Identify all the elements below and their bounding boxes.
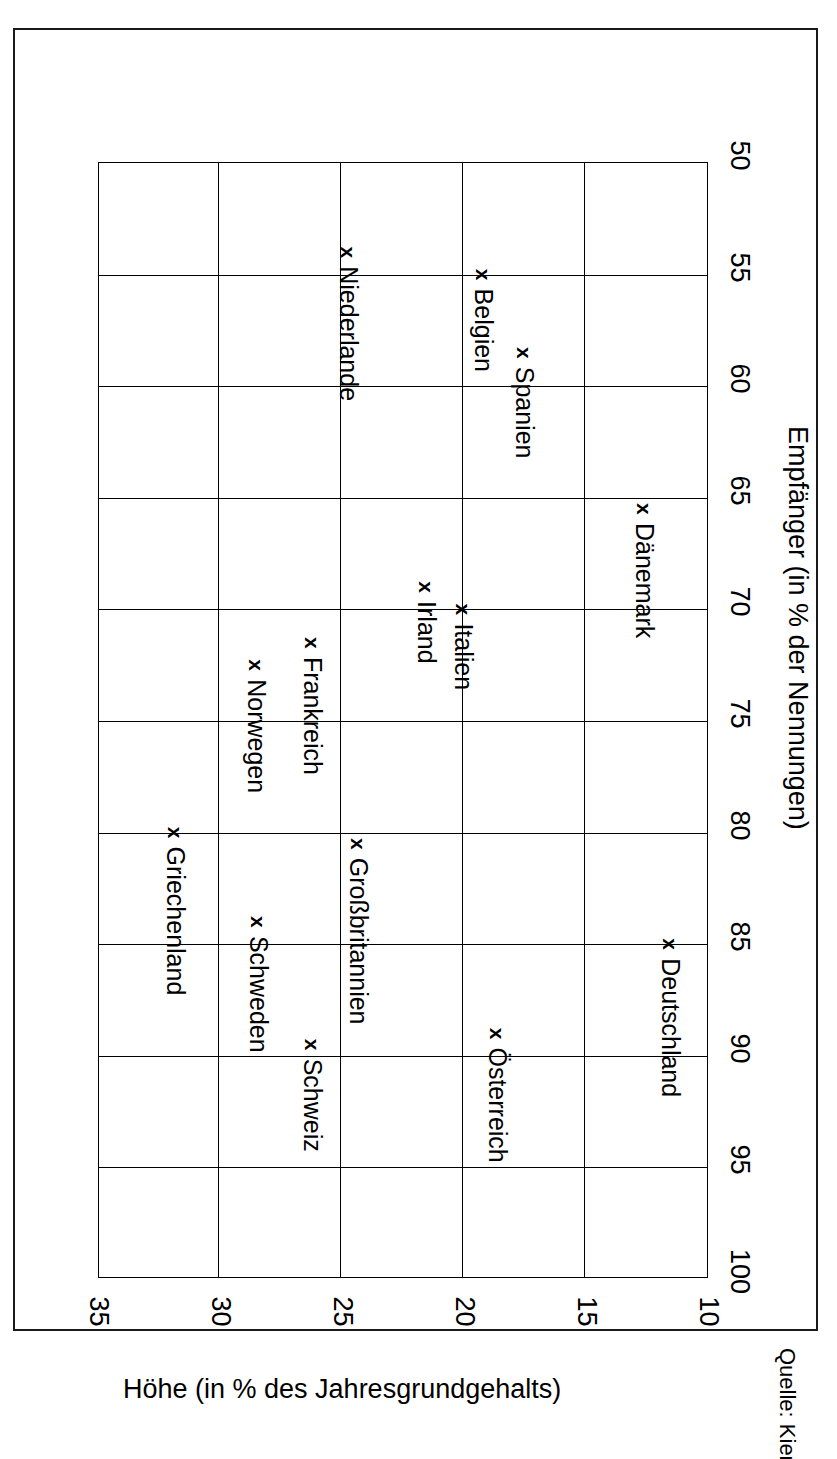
y-axis-title: Höhe (in % des Jahresgrundgehalts) (123, 1374, 561, 1405)
data-point-marker: x (453, 604, 474, 616)
x-axis-tick: 60 (724, 349, 755, 409)
rotated-chart-canvas: xDeutschlandxÖsterreichxGroßbritannienxS… (98, 162, 708, 1278)
data-point-label: Spanien (512, 367, 537, 459)
data-point-label: Schweiz (300, 1059, 325, 1152)
x-axis-tick: 55 (724, 237, 755, 297)
x-axis-tick: 80 (724, 795, 755, 855)
data-point-label: Belgien (471, 289, 496, 372)
data-point-label: Großbritannien (346, 858, 371, 1025)
gridline-vertical (99, 386, 707, 387)
x-axis-tick: 70 (724, 572, 755, 632)
figure-frame: xDeutschlandxÖsterreichxGroßbritannienxS… (13, 28, 818, 1331)
y-axis-tick: 35 (83, 1282, 114, 1342)
gridline-vertical (99, 1167, 707, 1168)
data-point-marker: x (487, 1028, 508, 1040)
y-axis-tick: 10 (693, 1282, 724, 1342)
data-point-marker: x (165, 827, 186, 839)
gridline-vertical (99, 609, 707, 610)
gridline-horizontal (584, 163, 585, 1277)
gridline-vertical (99, 944, 707, 945)
data-point-marker: x (248, 916, 269, 928)
data-point-label: Schweden (246, 936, 271, 1053)
y-axis-tick: 30 (205, 1282, 236, 1342)
x-axis-tick: 90 (724, 1018, 755, 1078)
data-point-marker: x (301, 637, 322, 649)
data-point-marker: x (514, 347, 535, 359)
gridline-vertical (99, 1056, 707, 1057)
y-axis-tick: 25 (327, 1282, 358, 1342)
gridline-horizontal (218, 163, 219, 1277)
gridline-horizontal (462, 163, 463, 1277)
data-point-label: Österreich (485, 1047, 510, 1162)
data-point-label: Deutschland (658, 958, 683, 1097)
x-axis-tick: 95 (724, 1130, 755, 1190)
y-axis-tick: 15 (571, 1282, 602, 1342)
data-point-marker: x (348, 838, 369, 850)
data-point-label: Norwegen (244, 679, 269, 793)
x-axis-tick: 75 (724, 684, 755, 744)
y-axis-tick: 20 (449, 1282, 480, 1342)
x-axis-title: Empfänger (in % der Nennungen) (782, 426, 813, 830)
data-point-label: Italien (451, 623, 476, 690)
data-point-marker: x (245, 659, 266, 671)
data-point-label: Niederlande (336, 266, 361, 401)
gridline-vertical (99, 498, 707, 499)
gridline-vertical (99, 833, 707, 834)
data-point-marker: x (301, 1039, 322, 1051)
data-point-marker: x (472, 269, 493, 281)
gridline-vertical (99, 275, 707, 276)
data-point-marker: x (660, 938, 681, 950)
x-axis-tick: 65 (724, 460, 755, 520)
data-point-label: Frankreich (300, 657, 325, 775)
gridline-vertical (99, 721, 707, 722)
data-point-marker: x (338, 246, 359, 258)
x-axis-tick: 85 (724, 907, 755, 967)
data-point-label: Griechenland (163, 847, 188, 996)
x-axis-tick: 50 (724, 126, 755, 186)
source-note: Quelle: Kienbaum, Jahresbericht 2000, S.… (774, 1348, 800, 1459)
data-point-marker: x (633, 503, 654, 515)
data-point-label: Dänemark (632, 523, 657, 638)
data-point-marker: x (416, 581, 437, 593)
x-axis-tick: 100 (724, 1242, 755, 1302)
plot-area: xDeutschlandxÖsterreichxGroßbritannienxS… (98, 162, 708, 1278)
data-point-label: Irland (414, 601, 439, 664)
